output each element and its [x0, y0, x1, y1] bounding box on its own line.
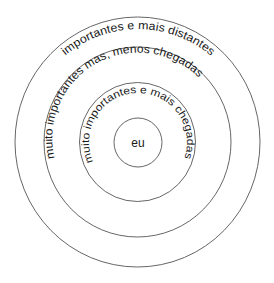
concentric-circles-diagram: muito importantes e mais chegadas muito …: [0, 0, 274, 283]
diagram-canvas: muito importantes e mais chegadas muito …: [0, 0, 274, 283]
ring-label-middle-text: muito importantes mas, menos chegadas: [42, 43, 206, 161]
ring-label-inner-text: muito importantes e mais chegadas: [79, 83, 197, 165]
ring-label-middle: muito importantes mas, menos chegadas: [42, 43, 206, 161]
ring-label-inner: muito importantes e mais chegadas: [79, 83, 197, 165]
center-label: eu: [131, 136, 144, 150]
